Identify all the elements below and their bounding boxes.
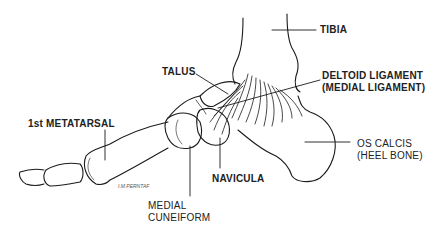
label-heel-bone: (HEEL BONE)	[357, 150, 423, 162]
distal-phalanx-bone	[19, 169, 44, 185]
medial-cuneiform-bone	[165, 113, 202, 148]
foot-anatomy-diagram: TIBIA TALUS DELTOID LIGAMENT (MEDIAL LIG…	[0, 0, 437, 238]
tibia-bone	[233, 18, 243, 84]
first-metatarsal-bone	[84, 122, 168, 185]
artist-signature: I.M.PERNTAF	[118, 183, 149, 189]
label-cuneiform: CUNEIFORM	[148, 212, 210, 224]
label-first-metatarsal: 1st METATARSAL	[28, 118, 115, 130]
deltoid-ligament-fibers	[210, 74, 302, 134]
label-deltoid-ligament: DELTOID LIGAMENT	[322, 70, 423, 82]
os-calcis-bone	[238, 96, 335, 182]
proximal-phalanx-bone	[44, 163, 83, 186]
label-tibia: TIBIA	[320, 24, 347, 36]
label-medial: MEDIAL	[148, 200, 186, 212]
label-os-calcis: OS CALCIS	[357, 138, 412, 150]
label-navicula: NAVICULA	[212, 173, 265, 185]
label-medial-ligament: (MEDIAL LIGAMENT)	[322, 82, 425, 94]
label-talus: TALUS	[162, 66, 196, 78]
